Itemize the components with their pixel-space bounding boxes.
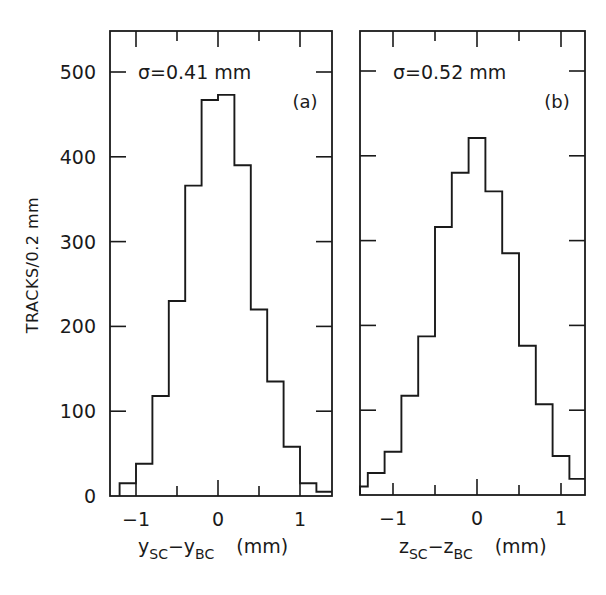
y-tick-label: 200 xyxy=(60,315,96,337)
y-tick-label: 400 xyxy=(60,146,96,168)
y-axis-label: TRACKS/0.2 mm xyxy=(23,197,42,334)
sigma-annotation: σ=0.41 mm xyxy=(138,61,251,83)
x-tick-label: 0 xyxy=(471,507,483,529)
histogram-steps xyxy=(360,138,585,495)
x-tick-label: 1 xyxy=(294,508,306,530)
panel-tag: (b) xyxy=(544,91,569,112)
panel-a: −101σ=0.41 mm(a)ySC−yBC(mm) xyxy=(110,31,332,562)
x-tick-label: −1 xyxy=(379,507,407,529)
x-tick-label: 0 xyxy=(212,508,224,530)
y-tick-label: 100 xyxy=(60,400,96,422)
histogram-steps xyxy=(120,95,332,496)
x-axis-label: zSC−zBC(mm) xyxy=(399,535,547,562)
sigma-annotation: σ=0.52 mm xyxy=(393,61,506,83)
panel-b: −101σ=0.52 mm(b)zSC−zBC(mm) xyxy=(360,31,585,562)
x-tick-label: −1 xyxy=(122,508,150,530)
x-tick-label: 1 xyxy=(555,507,567,529)
panel-tag: (a) xyxy=(292,91,317,112)
x-axis-label: ySC−yBC(mm) xyxy=(138,535,288,562)
y-tick-label: 0 xyxy=(84,485,96,507)
y-tick-label: 500 xyxy=(60,61,96,83)
histogram-figure: −101σ=0.41 mm(a)ySC−yBC(mm) −101σ=0.52 m… xyxy=(0,0,606,595)
y-tick-label: 300 xyxy=(60,231,96,253)
